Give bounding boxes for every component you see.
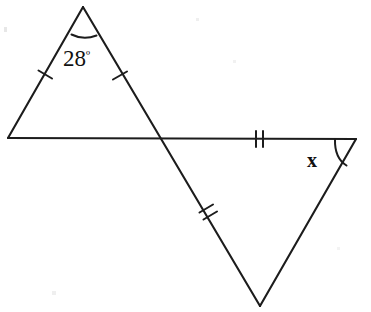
geometry-figure: 28º x	[0, 0, 371, 312]
arc-right-x	[335, 140, 347, 166]
segment-upper-left-leg	[8, 7, 83, 138]
degree-symbol-icon: º	[86, 47, 90, 62]
arc-apex-28-degrees	[72, 35, 97, 38]
angle-label-28-degrees: 28º	[63, 46, 90, 72]
angle-label-x: x	[307, 149, 317, 172]
angle-28-value: 28	[63, 46, 86, 71]
segment-apex-to-bottom	[83, 7, 260, 306]
segment-horizontal-baseline	[8, 138, 356, 139]
